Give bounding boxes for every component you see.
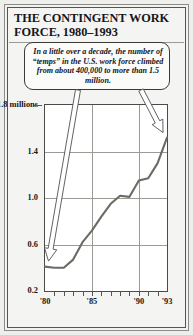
callout-arrow-to-end [139,89,163,133]
figure-container: THE CONTINGENT WORK FORCE, 1980–1993 In … [0,0,193,335]
callout-arrow-to-start [44,90,80,262]
callout-arrows-layer [0,0,193,335]
